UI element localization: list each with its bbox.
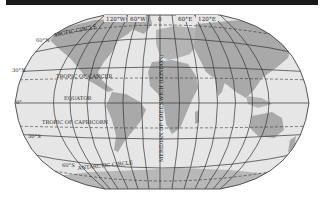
label-equator: EQUATOR	[64, 95, 92, 101]
label-120w: 120°W	[106, 16, 126, 22]
label-prime-meridian: MERIDIAN OF GREENWICH (LONDON)	[158, 54, 164, 162]
label-tropic-of-cancer: TROPIC OF CANCER	[56, 73, 113, 79]
label-0-latitude: 0°	[16, 99, 22, 105]
label-60w: 60°W	[130, 16, 146, 22]
label-60s: 60°S	[62, 162, 75, 168]
label-30s: 30°S	[28, 133, 41, 139]
label-30n: 30°N	[12, 67, 26, 73]
label-120e: 120°E	[198, 16, 216, 22]
label-tropic-of-capricorn: TROPIC OF CAPRICORN	[42, 119, 109, 125]
label-60n: 60°N	[36, 37, 50, 43]
label-60e: 60°E	[178, 16, 192, 22]
longitude-labels: 120°W 60°W 0 60°E 120°E	[104, 15, 218, 22]
world-map: 120°W 60°W 0 60°E 120°E 60°N 30°N 0° 30°…	[0, 0, 321, 202]
label-0-longitude: 0	[158, 16, 162, 22]
